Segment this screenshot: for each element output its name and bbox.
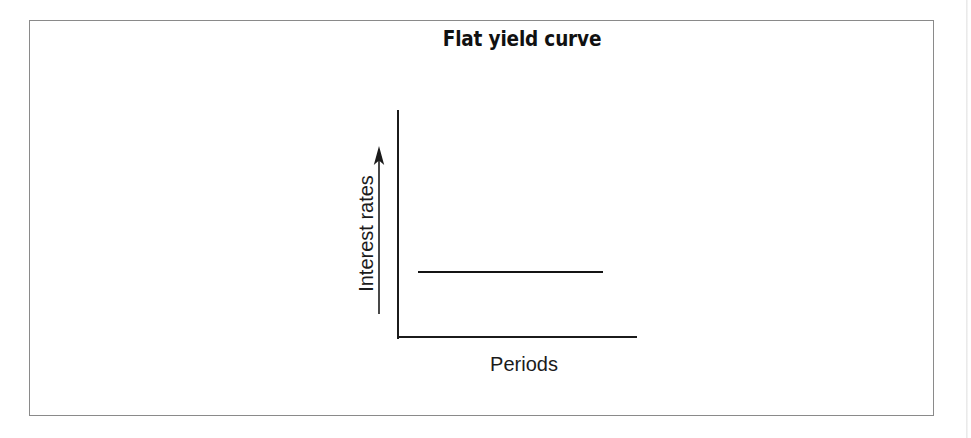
plot-area: Interest rates Periods — [0, 0, 971, 438]
y-axis-line — [397, 110, 399, 339]
figure-page: Flat yield curve Interest rates Periods — [0, 0, 971, 438]
yield-curve-line — [418, 271, 603, 273]
x-axis-label: Periods — [424, 353, 624, 376]
y-axis-label: Interest rates — [355, 139, 378, 329]
x-axis-line — [397, 336, 637, 338]
